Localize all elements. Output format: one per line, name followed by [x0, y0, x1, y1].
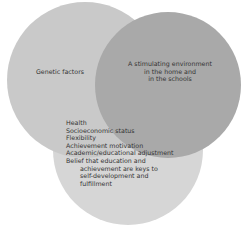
personal-factors-list: Health Socioeconomic status Flexibility …	[66, 119, 236, 187]
environment-label: A stimulating environment in the home an…	[115, 60, 225, 83]
list-item-continuation: achievement are keys to self-development…	[66, 165, 236, 188]
list-item: Academic/educational adjustment	[66, 149, 236, 157]
genetic-factors-label: Genetic factors	[20, 68, 100, 76]
list-item: Health	[66, 119, 236, 127]
list-item: Socioeconomic status	[66, 127, 236, 135]
list-item: Flexibility	[66, 134, 236, 142]
venn-diagram	[0, 0, 241, 227]
list-item: Belief that education and	[66, 157, 236, 165]
list-item: Achievement motivation	[66, 142, 236, 150]
